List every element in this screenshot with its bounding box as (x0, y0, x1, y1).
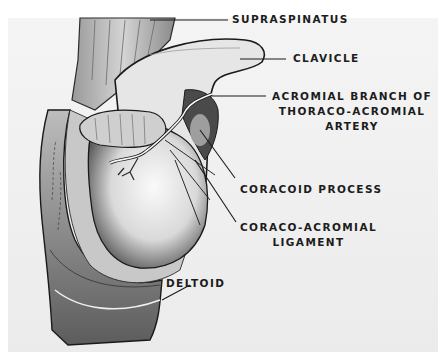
label-line: LIGAMENT (240, 235, 377, 250)
label-coraco-acromial-ligament: CORACO-ACROMIAL LIGAMENT (240, 220, 377, 250)
label-line: ARTERY (272, 119, 432, 134)
label-line: CORACO-ACROMIAL (240, 220, 377, 235)
label-deltoid: DELTOID (166, 276, 225, 291)
acromion-flap (80, 110, 166, 147)
label-line: ACROMIAL BRANCH OF (272, 89, 432, 104)
shoulder-anatomy-drawing (0, 0, 442, 356)
label-acromial-branch: ACROMIAL BRANCH OF THORACO-ACROMIAL ARTE… (272, 89, 432, 134)
label-supraspinatus: SUPRASPINATUS (232, 12, 349, 27)
label-coracoid-process: CORACOID PROCESS (240, 182, 382, 197)
label-line: THORACO-ACROMIAL (272, 104, 432, 119)
label-clavicle: CLAVICLE (293, 51, 360, 66)
